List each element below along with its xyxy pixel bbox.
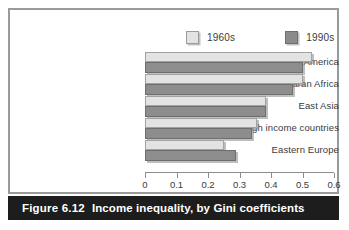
bar-1960s-latin-america	[145, 52, 312, 62]
figure-number: Figure 6.12	[22, 202, 85, 214]
plot-area: Latin America Sub–Saharan Africa East As…	[20, 50, 339, 180]
x-axis-tick-label: 0.5	[288, 179, 318, 190]
x-axis-tick	[303, 173, 304, 178]
legend-item-1990s: 1990s	[285, 31, 334, 44]
legend-label-1990s: 1990s	[306, 32, 334, 43]
chart-frame: 1960s 1990s Latin America Sub–Saharan Af…	[8, 8, 339, 194]
x-axis-tick	[334, 173, 335, 178]
bar-1960s-high-income-countries	[145, 118, 257, 128]
bar-group-east-asia	[145, 96, 339, 118]
figure-container: 1960s 1990s Latin America Sub–Saharan Af…	[0, 0, 349, 230]
x-axis-tick-label: 0.6	[319, 179, 349, 190]
bar-group-eastern-europe	[145, 140, 339, 162]
x-axis-tick	[271, 173, 272, 178]
x-axis-tick	[177, 173, 178, 178]
bar-1990s-high-income-countries	[145, 128, 252, 139]
bar-1960s-eastern-europe	[145, 140, 224, 150]
legend-label-1960s: 1960s	[207, 32, 235, 43]
chart-legend: 1960s 1990s	[186, 29, 335, 45]
x-axis-tick	[208, 173, 209, 178]
bar-1990s-sub-saharan-africa	[145, 84, 293, 95]
figure-caption-bar: Figure 6.12 Income inequality, by Gini c…	[8, 196, 339, 220]
bar-group-sub-saharan-africa	[145, 74, 339, 96]
figure-caption-text: Income inequality, by Gini coefficients	[92, 202, 305, 214]
bar-1990s-eastern-europe	[145, 150, 236, 161]
x-axis: 00.10.20.30.40.50.6	[145, 172, 334, 180]
dark-square-icon	[285, 31, 298, 44]
x-axis-tick-label: 0.1	[162, 179, 192, 190]
bar-1990s-east-asia	[145, 106, 266, 117]
x-axis-tick-label: 0.4	[256, 179, 286, 190]
bar-1960s-sub-saharan-africa	[145, 74, 303, 84]
bar-1990s-latin-america	[145, 62, 303, 73]
x-axis-tick-label: 0.2	[193, 179, 223, 190]
x-axis-tick-label: 0	[130, 179, 160, 190]
x-axis-tick	[145, 173, 146, 178]
legend-item-1960s: 1960s	[186, 31, 235, 44]
light-square-icon	[186, 31, 199, 44]
bar-rows	[145, 50, 339, 165]
x-axis-tick-label: 0.3	[225, 179, 255, 190]
bar-group-high-income-countries	[145, 118, 339, 140]
bar-1960s-east-asia	[145, 96, 266, 106]
x-axis-tick	[240, 173, 241, 178]
bar-group-latin-america	[145, 52, 339, 74]
